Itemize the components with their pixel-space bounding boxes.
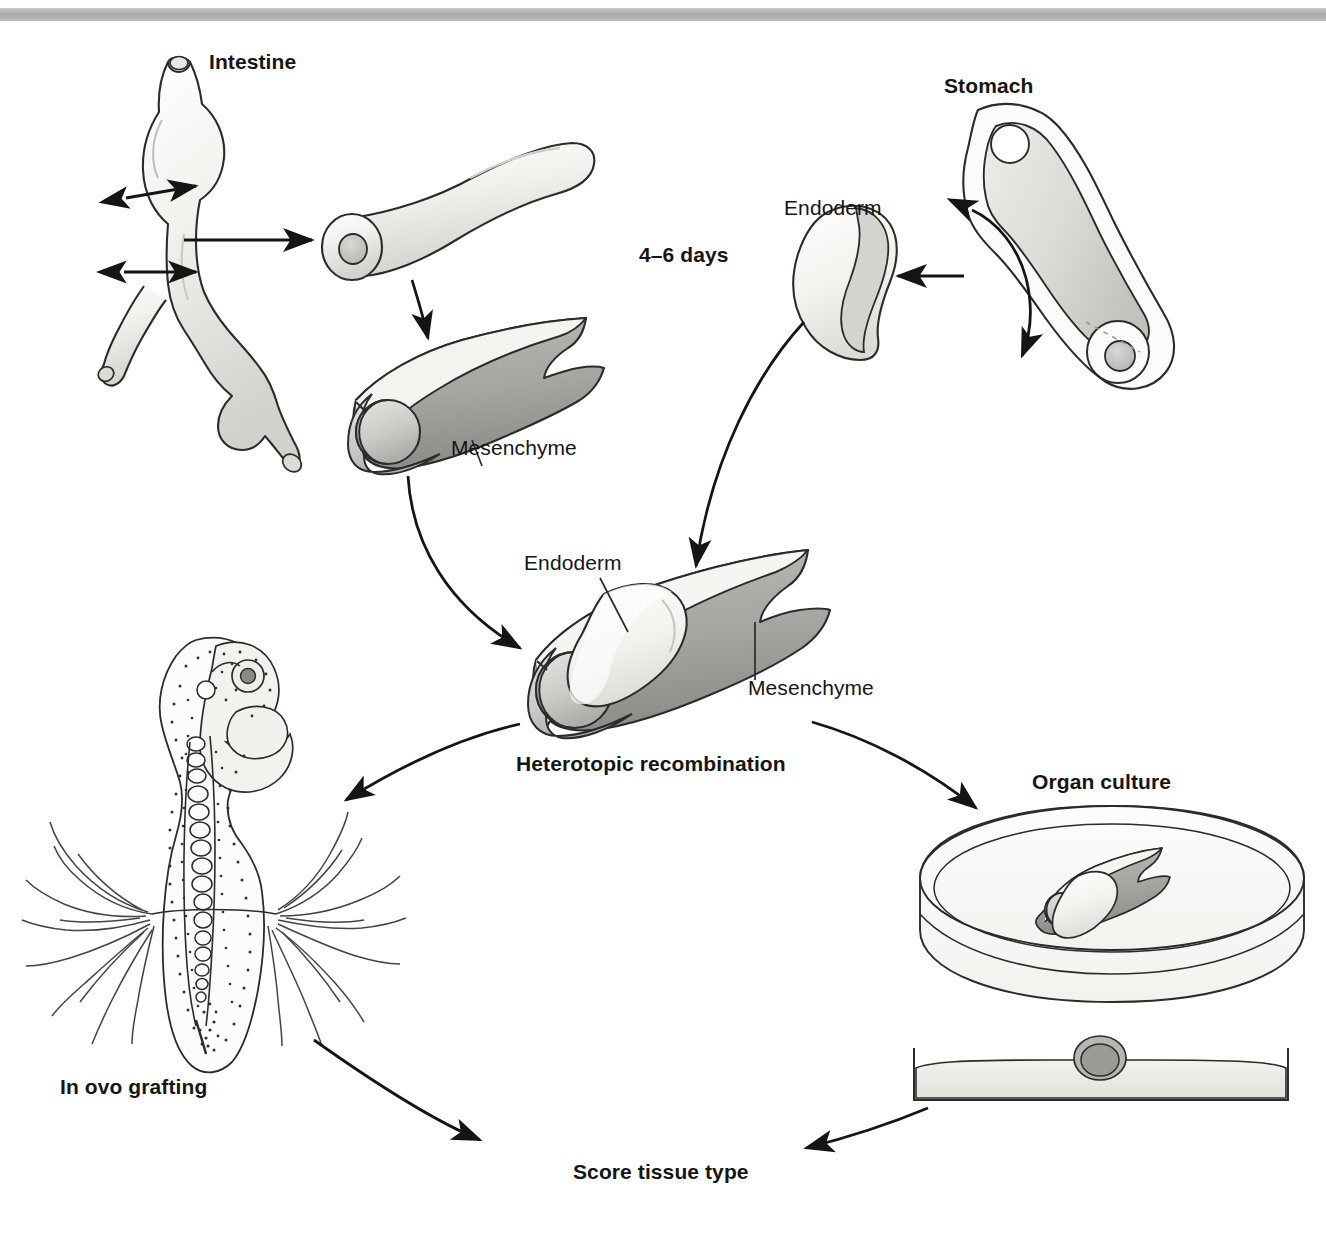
label-days: 4–6 days: [639, 243, 729, 267]
stomach-endoderm-illustration: [793, 206, 896, 360]
arrow-recombination-to-organ-culture[interactable]: [812, 722, 976, 808]
organ-culture-dish-illustration: [920, 806, 1304, 1002]
dish-cross-section-illustration: [914, 1036, 1288, 1100]
intestine-source-illustration: [96, 57, 305, 476]
intestine-segment-illustration: [322, 143, 594, 280]
recombination-illustration: [528, 550, 830, 738]
arrow-organ-culture-to-score[interactable]: [806, 1108, 928, 1148]
label-heterotopic-recombination: Heterotopic recombination: [516, 752, 786, 776]
arrow-endoderm-to-recombination[interactable]: [696, 322, 804, 566]
label-score-tissue-type: Score tissue type: [573, 1160, 749, 1184]
label-mesenchyme-top: Mesenchyme: [451, 436, 577, 460]
label-organ-culture: Organ culture: [1032, 770, 1171, 794]
label-stomach: Stomach: [944, 74, 1033, 98]
in-ovo-embryo-illustration: [22, 638, 406, 1073]
label-mesenchyme-center: Mesenchyme: [748, 676, 874, 700]
label-intestine: Intestine: [209, 50, 296, 74]
label-endoderm-center: Endoderm: [524, 551, 622, 575]
arrow-segment-to-mesenchyme[interactable]: [412, 280, 428, 338]
arrow-recombination-to-in-ovo[interactable]: [346, 724, 520, 800]
diagram-canvas: [0, 0, 1326, 1256]
figure-root: Intestine Stomach 4–6 days Endoderm Mese…: [0, 0, 1326, 1256]
arrow-mesenchyme-to-recombination[interactable]: [408, 476, 520, 648]
label-endoderm-top: Endoderm: [784, 196, 882, 220]
arrow-in-ovo-to-score[interactable]: [314, 1040, 480, 1140]
stomach-source-illustration: [964, 104, 1175, 389]
label-in-ovo-grafting: In ovo grafting: [60, 1075, 207, 1099]
